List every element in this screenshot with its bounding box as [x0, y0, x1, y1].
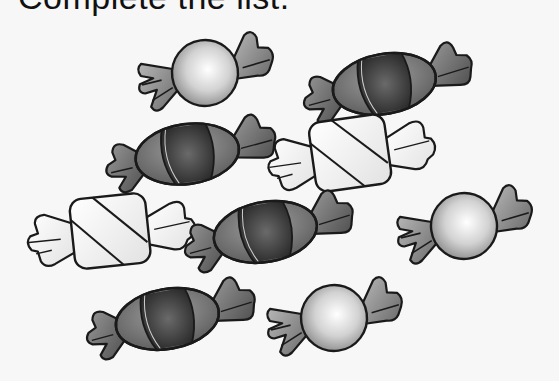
- oval-candy-icon: [101, 112, 280, 196]
- square-candy-icon: [24, 187, 198, 274]
- candy-list: [24, 29, 538, 362]
- oval-candy-icon: [81, 274, 261, 363]
- square-candy-icon: [263, 107, 439, 200]
- candy-scene: [0, 0, 559, 381]
- oval-candy-icon: [179, 187, 359, 276]
- round-candy-icon: [263, 274, 408, 360]
- oval-candy-icon: [298, 39, 478, 128]
- round-candy-icon: [134, 29, 279, 115]
- round-candy-icon: [393, 182, 538, 268]
